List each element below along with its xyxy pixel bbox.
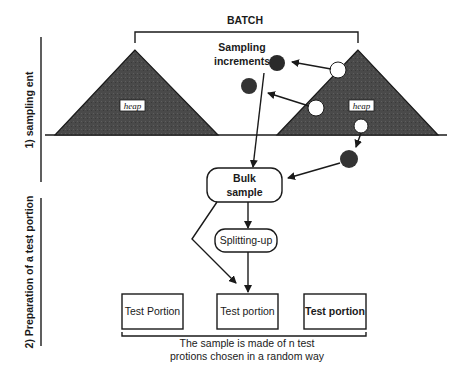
test-portions-bracket	[122, 332, 366, 336]
increment-hole-3	[354, 119, 368, 133]
sampling-diagram: 1) sampling ent 2) Preparation of a test…	[0, 0, 468, 378]
heap-right-label: heap	[353, 101, 371, 111]
section2-label: 2) Preparation of a test portion	[23, 196, 35, 349]
arrow-hole2-to-increment2	[268, 93, 309, 106]
test-portion-label-1: Test Portion	[125, 305, 181, 317]
increment-2	[241, 78, 257, 94]
caption-line-1: The sample is made of n test	[180, 337, 315, 349]
test-portion-label-3: Test portion	[305, 305, 365, 317]
arrow-increment3-to-bulk	[288, 163, 340, 178]
section1-label: 1) sampling ent	[23, 71, 35, 149]
heap-left	[55, 50, 218, 135]
increment-3	[340, 150, 358, 168]
batch-label: BATCH	[227, 14, 263, 26]
bulk-sample-label-2: sample	[226, 186, 262, 198]
splitting-up-label: Splitting-up	[220, 234, 273, 246]
arrow-hole1-to-increment1	[292, 62, 331, 69]
caption-line-2: protions chosen in a random way	[170, 350, 325, 362]
sampling-increments-label-1: Sampling	[218, 41, 265, 53]
test-portion-label-2: Test portion	[220, 305, 274, 317]
increment-hole-2	[308, 100, 324, 116]
increment-1	[269, 55, 285, 71]
bulk-sample-label-1: Bulk	[233, 172, 256, 184]
heap-left-label: heap	[124, 101, 142, 111]
increment-hole-1	[330, 62, 346, 78]
sampling-increments-label-2: increments	[214, 55, 270, 67]
